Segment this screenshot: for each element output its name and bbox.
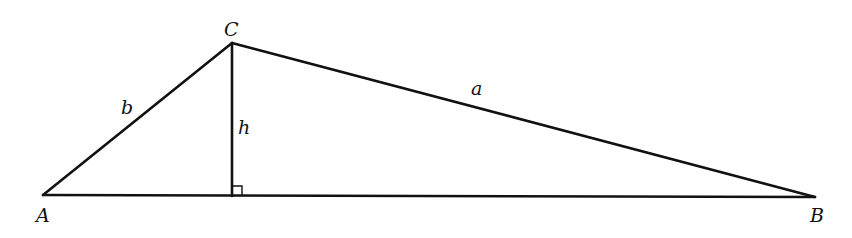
side-label-a: a — [471, 77, 482, 99]
vertex-label-a: A — [34, 204, 50, 226]
altitude-label-h: h — [238, 116, 250, 138]
side-label-b: b — [121, 96, 133, 118]
vertex-label-b: B — [809, 204, 824, 226]
vertex-label-c: C — [224, 18, 239, 40]
side-b — [43, 43, 232, 195]
side-ab — [43, 195, 815, 197]
side-a — [232, 43, 815, 197]
triangle-diagram: A B C b a h — [0, 0, 852, 238]
